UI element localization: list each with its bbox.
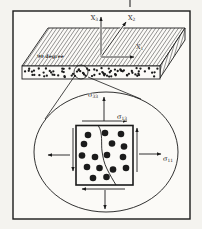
fiber-dot [109,140,116,147]
fiber-dot [79,152,86,159]
fiber-dot [103,174,110,181]
figure-page: 90 degree X3 X2 X1 σ33 σ13 σ11 [0,0,202,229]
fiber-dot [104,152,111,159]
fiber-dot [102,130,109,137]
ply-angle-label: 90 degree [37,53,64,60]
fiber-dot [81,141,88,148]
fiber-dot [84,164,91,171]
fiber-dot [118,131,125,138]
fiber-dot [92,154,99,161]
composite-lamina-diagram: 90 degree X3 X2 X1 σ33 σ13 σ11 [0,0,202,229]
fiber-dot [123,165,130,172]
fiber-dot [90,175,97,182]
fiber-dot [110,166,117,173]
fiber-dot [96,165,103,172]
fiber-dot [121,143,128,150]
fiber-dot [85,132,92,139]
fiber-dot [120,154,127,161]
